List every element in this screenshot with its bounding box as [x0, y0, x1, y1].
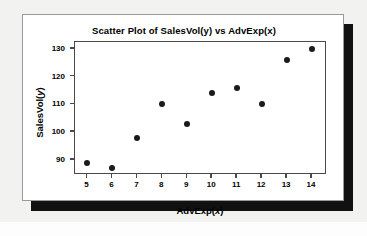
- data-point: [184, 121, 190, 127]
- screenshot-root: Scatter Plot of SalesVol(y) vs AdvExp(x)…: [0, 0, 367, 236]
- x-tick-mark: [186, 174, 188, 178]
- x-tick-mark: [86, 174, 88, 178]
- y-axis-label-tail: ): [34, 87, 45, 90]
- x-tick-mark: [111, 174, 113, 178]
- data-point: [109, 165, 115, 171]
- y-tick-label: 120: [39, 71, 65, 80]
- x-tick-label: 10: [199, 180, 223, 189]
- x-tick-mark: [310, 174, 312, 178]
- x-tick-label: 7: [124, 180, 148, 189]
- plot-area: [74, 41, 326, 174]
- data-point: [234, 85, 240, 91]
- x-tick-label: 9: [174, 180, 198, 189]
- data-point: [309, 46, 315, 52]
- x-tick-mark: [235, 174, 237, 178]
- data-point: [259, 101, 265, 107]
- x-tick-mark: [210, 174, 212, 178]
- x-tick-label: 5: [74, 180, 98, 189]
- data-point: [134, 135, 140, 141]
- x-tick-label: 14: [299, 180, 323, 189]
- y-tick-label: 90: [39, 154, 65, 163]
- x-tick-label: 6: [99, 180, 123, 189]
- x-tick-label: 13: [274, 180, 298, 189]
- y-axis-label-variable: y: [34, 90, 45, 95]
- data-point: [209, 90, 215, 96]
- x-tick-label: 8: [149, 180, 173, 189]
- data-point: [159, 101, 165, 107]
- x-tick-mark: [260, 174, 262, 178]
- x-tick-label: 12: [249, 180, 273, 189]
- chart-title: Scatter Plot of SalesVol(y) vs AdvExp(x): [23, 25, 345, 36]
- x-tick-mark: [161, 174, 163, 178]
- page-background-lower: [0, 222, 367, 236]
- data-point: [84, 160, 90, 166]
- x-axis-label-tail: ): [220, 205, 223, 216]
- y-tick-label: 130: [39, 43, 65, 52]
- data-point: [284, 57, 290, 63]
- x-axis-label-text: AdvExp(: [176, 205, 215, 216]
- x-tick-mark: [285, 174, 287, 178]
- y-tick-label: 100: [39, 127, 65, 136]
- y-axis-label: SalesVol(y): [34, 68, 45, 158]
- y-tick-label: 110: [39, 99, 65, 108]
- figure-card: Scatter Plot of SalesVol(y) vs AdvExp(x)…: [22, 14, 344, 201]
- x-tick-mark: [136, 174, 138, 178]
- x-axis-label: AdvExp(x): [74, 205, 326, 216]
- x-tick-label: 11: [224, 180, 248, 189]
